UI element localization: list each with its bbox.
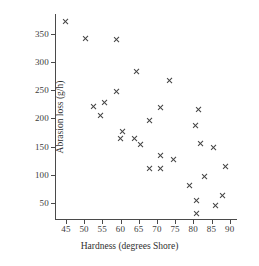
data-point [212,202,219,209]
data-point [170,156,177,163]
x-tick-label: 45 [61,224,70,234]
data-point [97,112,104,119]
data-point [223,163,230,170]
data-point [113,88,120,95]
data-point [101,99,108,106]
y-tick-label: 350 [35,29,49,39]
data-point [113,36,120,43]
data-point [192,122,199,129]
y-tick-label: 100 [35,170,49,180]
x-tick-label: 60 [116,224,125,234]
x-tick-label: 80 [189,224,198,234]
data-point [201,173,208,180]
data-point [146,117,153,124]
data-point [90,103,97,110]
plot-area: 50100150200250300350 4550556065707580859… [55,14,237,220]
y-tick-label: 300 [35,57,49,67]
data-point [166,77,173,84]
data-point [157,104,164,111]
x-axis-title: Hardness (degrees Shore) [0,241,259,251]
data-point [157,165,164,172]
x-tick-label: 70 [152,224,161,234]
data-point [219,192,226,199]
data-point [193,197,200,204]
data-point [119,128,126,135]
x-tick-label: 50 [79,224,88,234]
data-point [186,182,193,189]
x-tick-label: 55 [98,224,107,234]
data-point [193,210,200,217]
data-point [146,165,153,172]
x-tick-label: 85 [207,224,216,234]
data-point [117,135,124,142]
data-point [210,144,217,151]
data-point [82,35,89,42]
data-point [133,68,140,75]
y-tick-label: 150 [35,142,49,152]
data-point [157,152,164,159]
x-tick-label: 75 [170,224,179,234]
data-point [132,135,139,142]
x-tick-label: 90 [225,224,234,234]
data-point [197,140,204,147]
y-tick-label: 250 [35,85,49,95]
data-point [137,141,144,148]
data-point [195,106,202,113]
x-tick-label: 65 [134,224,143,234]
scatter-plot-figure: 50100150200250300350 4550556065707580859… [0,0,259,266]
y-tick-label: 200 [35,113,49,123]
x-axis-line [55,219,237,220]
y-axis-title: Abrasion loss (g/h) [53,14,67,220]
y-tick-label: 50 [40,198,49,208]
